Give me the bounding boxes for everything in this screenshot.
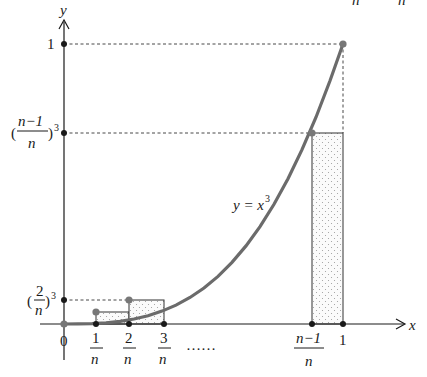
x-tick-dot-2n [126,321,132,327]
x-tick-ellipsis: …… [186,337,216,353]
svg-text:(: ( [27,293,32,310]
svg-text:3: 3 [51,290,56,301]
x-tick-label-3n: 3 n [158,330,171,367]
svg-text:n: n [159,351,167,367]
x-tick-label-n1n: n−1 n [294,330,324,369]
svg-text:n−1: n−1 [18,113,43,129]
y-tick-label-one: 1 [47,36,55,52]
svg-text:n: n [28,135,36,151]
svg-text:3: 3 [54,122,59,133]
x-tick-label-1n: 1 n [90,330,103,367]
y-tick-dot-n1 [61,130,67,136]
y-tick-dot-one [61,41,67,47]
x-tick-dot-3n [161,321,167,327]
x-tick-label-one: 1 [339,332,347,348]
curve-point-1n [92,308,99,315]
curve-label: y = x 3 [231,193,270,213]
svg-text:3: 3 [265,193,270,204]
x-axis-label: x [408,317,416,333]
svg-text:n−1: n−1 [296,330,321,346]
y-tick-label-n1-cubed: ( n−1 n ) 3 [11,113,59,151]
curve-point-2n [125,296,132,303]
y-tick-dot-two [61,297,67,303]
svg-text:n: n [124,351,132,367]
x-tick-dot-1n [93,321,99,327]
riemann-rect-last [312,133,343,324]
svg-text:3: 3 [160,330,168,346]
svg-text:2: 2 [36,283,44,299]
svg-text:n: n [35,302,43,318]
curve-point-origin [60,320,67,327]
svg-text:n: n [91,351,99,367]
svg-text:): ) [48,125,53,142]
svg-text:1: 1 [92,330,100,346]
svg-text:2: 2 [125,330,133,346]
svg-text:y = x: y = x [231,197,264,213]
x-tick-label-2n: 2 n [123,330,136,367]
curve-point-one [339,40,346,47]
curve-point-n1n [308,129,315,136]
x-tick-label-zero: 0 [60,333,68,349]
svg-text:): ) [45,293,50,310]
curve-y-equals-x-cubed [64,44,343,324]
y-tick-label-two-cubed: ( 2 n ) 3 [27,283,56,318]
x-tick-dot-n1n [309,321,315,327]
y-axis-label: y [58,2,67,18]
clipped-top-glyph-left: n [352,0,360,8]
svg-text:(: ( [11,125,16,142]
clipped-top-glyph-right: n [398,0,406,8]
x-tick-dot-one [340,321,346,327]
svg-text:n: n [305,353,313,369]
riemann-sum-diagram: n n y x 1 ( n−1 n ) 3 ( 2 n [0,0,427,377]
